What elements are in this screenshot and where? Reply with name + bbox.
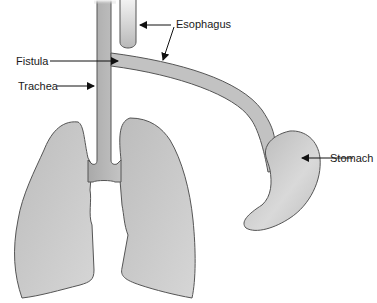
right-lung — [118, 118, 195, 298]
stomach — [244, 131, 320, 230]
esophagus-upper-pouch — [120, 0, 136, 48]
stomach-label: Stomach — [330, 152, 373, 164]
trachea-label: Trachea — [18, 80, 58, 92]
esophagus-label: Esophagus — [176, 18, 231, 30]
anatomy-illustration — [0, 0, 377, 303]
diagram-canvas: Esophagus Fistula Trachea Stomach — [0, 0, 377, 303]
left-lung — [15, 122, 94, 298]
trachea — [88, 0, 121, 182]
esophagus-arrow-lower — [163, 27, 174, 60]
fistula-label: Fistula — [16, 55, 48, 67]
